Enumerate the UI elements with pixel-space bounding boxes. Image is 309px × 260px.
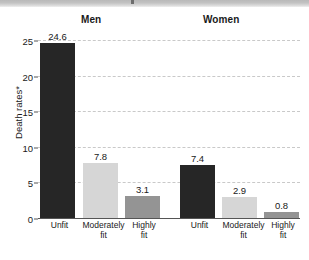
chart-figure: Men Women Death rates* 25 20 15 10 5 0 xyxy=(0,0,309,260)
xtick-label-women-unfit: Unfit xyxy=(180,220,219,230)
gridline-5: 5 xyxy=(38,182,300,183)
bar-women-unfit[interactable]: 7.4 xyxy=(180,165,215,218)
group-title-men: Men xyxy=(81,14,101,25)
bar-women-highly-fit[interactable]: 0.8 xyxy=(264,212,299,218)
ytick-mark-0 xyxy=(34,219,38,220)
xtick-label-women-moderately-fit: Moderately fit xyxy=(221,220,266,240)
xtick-men-moderate-line1: Moderately xyxy=(82,220,124,230)
bar-value-women-highly-fit: 0.8 xyxy=(275,200,288,211)
bar-value-men-moderately-fit: 7.8 xyxy=(94,151,107,162)
xtick-men-moderate-line2: fit xyxy=(81,230,126,240)
top-band-notch xyxy=(131,0,134,4)
top-decorative-band xyxy=(0,0,309,7)
ytick-mark-20 xyxy=(34,76,38,77)
bar-men-unfit[interactable]: 24.6 xyxy=(40,43,75,218)
ytick-mark-10 xyxy=(34,147,38,148)
ytick-label-10: 10 xyxy=(22,142,33,153)
bar-value-women-moderately-fit: 2.9 xyxy=(233,185,246,196)
xtick-label-men-highly-fit: Highly fit xyxy=(126,220,162,240)
xtick-women-moderate-line1: Moderately xyxy=(222,220,264,230)
gridline-25: 25 xyxy=(38,40,300,41)
xtick-women-moderate-line2: fit xyxy=(221,230,266,240)
gridline-15: 15 xyxy=(38,111,300,112)
ytick-label-25: 25 xyxy=(22,36,33,47)
xtick-women-unfit-line1: Unfit xyxy=(191,220,208,230)
ytick-label-5: 5 xyxy=(28,178,33,189)
xtick-women-highly-line2: fit xyxy=(265,230,301,240)
ytick-mark-5 xyxy=(34,183,38,184)
gridline-20: 20 xyxy=(38,76,300,77)
bar-value-men-highly-fit: 3.1 xyxy=(136,184,149,195)
ytick-label-20: 20 xyxy=(22,71,33,82)
ytick-mark-15 xyxy=(34,112,38,113)
xtick-men-unfit-line1: Unfit xyxy=(51,220,68,230)
ytick-mark-25 xyxy=(34,41,38,42)
bar-value-women-unfit: 7.4 xyxy=(191,153,204,164)
xtick-label-men-unfit: Unfit xyxy=(40,220,79,230)
group-title-women: Women xyxy=(203,14,239,25)
xtick-women-highly-line1: Highly xyxy=(271,220,295,230)
gridline-10: 10 xyxy=(38,147,300,148)
bar-men-moderately-fit[interactable]: 7.8 xyxy=(83,163,118,219)
xtick-men-highly-line1: Highly xyxy=(132,220,156,230)
plot-area: 25 20 15 10 5 0 24.6 7.8 3.1 xyxy=(38,40,300,218)
bar-men-highly-fit[interactable]: 3.1 xyxy=(125,196,160,218)
xtick-men-highly-line2: fit xyxy=(126,230,162,240)
xtick-label-men-moderately-fit: Moderately fit xyxy=(81,220,126,240)
bar-value-men-unfit: 24.6 xyxy=(48,31,67,42)
xtick-label-women-highly-fit: Highly fit xyxy=(265,220,301,240)
ytick-label-0: 0 xyxy=(28,214,33,225)
ytick-label-15: 15 xyxy=(22,107,33,118)
axis-baseline: 0 xyxy=(38,218,300,219)
bar-women-moderately-fit[interactable]: 2.9 xyxy=(222,197,257,218)
